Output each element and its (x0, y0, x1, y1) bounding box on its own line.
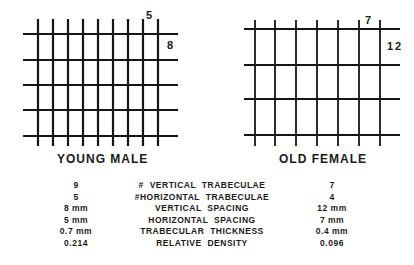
comparison-table: 9 # VERTICAL TRABECULAE 7 5 #HORIZONTAL … (50, 180, 362, 249)
young-male-title: YOUNG MALE (57, 152, 148, 166)
table-row: 5 mm HORIZONTAL SPACING 7 mm (50, 215, 362, 227)
old-female-value: 7 (302, 180, 362, 192)
young-male-vertical-spacing-label: 5 (146, 9, 152, 21)
young-male-horizontal-spacing-label: 8 (167, 39, 173, 51)
table-row: 0.214 RELATIVE DENSITY 0.096 (50, 238, 362, 250)
metric-label: #HORIZONTAL TRABECULAE (102, 192, 302, 204)
old-female-value: 12 mm (302, 203, 362, 215)
metric-label: HORIZONTAL SPACING (102, 215, 302, 227)
old-female-value: 0.4 mm (302, 226, 362, 238)
young-male-value: 8 mm (50, 203, 102, 215)
table-row: 9 # VERTICAL TRABECULAE 7 (50, 180, 362, 192)
old-female-grid (244, 20, 400, 146)
metric-label: VERTICAL SPACING (102, 203, 302, 215)
old-female-vertical-spacing-label: 7 (365, 14, 371, 26)
metric-label: RELATIVE DENSITY (102, 238, 302, 250)
table-row: 5 #HORIZONTAL TRABECULAE 4 (50, 192, 362, 204)
young-male-value: 0.214 (50, 238, 102, 250)
table-row: 0.7 mm TRABECULAR THICKNESS 0.4 mm (50, 226, 362, 238)
young-male-value: 0.7 mm (50, 226, 102, 238)
old-female-value: 7 mm (302, 215, 362, 227)
young-male-value: 5 mm (50, 215, 102, 227)
table-row: 8 mm VERTICAL SPACING 12 mm (50, 203, 362, 215)
old-female-horizontal-spacing-label: 12 (387, 40, 403, 52)
metric-label: TRABECULAR THICKNESS (102, 226, 302, 238)
metric-label: # VERTICAL TRABECULAE (102, 180, 302, 192)
old-female-title: OLD FEMALE (279, 152, 367, 166)
old-female-value: 0.096 (302, 238, 362, 250)
old-female-value: 4 (302, 192, 362, 204)
young-male-value: 9 (50, 180, 102, 192)
young-male-value: 5 (50, 192, 102, 204)
young-male-grid (23, 19, 178, 146)
